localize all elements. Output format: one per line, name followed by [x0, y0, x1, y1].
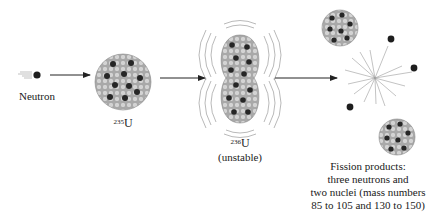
caption-line-3: two nuclei (mass numbers: [298, 186, 435, 199]
u236-label: 236U: [220, 137, 260, 150]
incoming-neutron: [18, 71, 41, 78]
emitted-neutron-2: [411, 65, 418, 72]
product-nucleus-bottom: [379, 119, 415, 155]
fission-products-caption: Fission products: three neutrons and two…: [298, 160, 435, 212]
u235-symbol: U: [124, 116, 133, 130]
u236-symbol: U: [241, 136, 250, 150]
speed-lines-icon: [18, 72, 32, 78]
u236-nucleus: [199, 21, 281, 138]
product-nucleus-top: [322, 10, 358, 46]
emitted-neutron-3: [347, 104, 354, 111]
u236-mass-number: 236: [230, 138, 241, 146]
neutron-particle: [33, 71, 40, 78]
u236-note: (unstable): [205, 151, 275, 164]
neutron-label: Neutron: [14, 90, 60, 103]
burst-icon: [345, 46, 412, 106]
u235-label: 235U: [103, 117, 143, 130]
caption-line-4: 85 to 105 and 130 to 150): [298, 199, 435, 212]
u235-nucleus: [95, 54, 151, 110]
emitted-neutron-1: [388, 36, 395, 43]
caption-line-1: Fission products:: [298, 160, 435, 173]
caption-line-2: three neutrons and: [298, 173, 435, 186]
u235-mass-number: 235: [113, 118, 124, 126]
